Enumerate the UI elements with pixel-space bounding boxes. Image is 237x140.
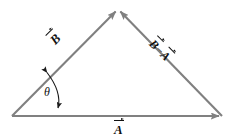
vector-diagram: B B−A A θ	[0, 0, 237, 140]
vector-b-minus-a-line	[120, 12, 222, 116]
angle-theta-label: θ	[44, 86, 50, 98]
vector-a-label-text: A	[114, 121, 123, 136]
vector-a-label: A	[114, 121, 123, 136]
vector-diagram-canvas	[0, 0, 237, 140]
vector-b-line	[12, 12, 116, 116]
